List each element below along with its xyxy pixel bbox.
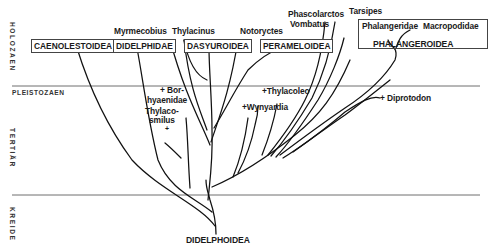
root-didelphoidea: DIDELPHOIDEA	[186, 236, 250, 245]
taxon-myrmecobius: Myrmecobius	[114, 27, 167, 35]
taxon-notoryctes: Notoryctes	[240, 27, 283, 35]
taxon-macropodidae: Macropodidae	[423, 22, 479, 30]
extinct-thylacosmilus-mark: +	[165, 125, 169, 132]
group-dasyuroidea: DASYUROIDEA	[184, 39, 252, 53]
taxon-phalangeridae: Phalangeridae	[362, 22, 418, 30]
era-label-kreide: KREIDE	[8, 207, 15, 242]
taxon-phascolarctos: Phascolarctos	[288, 10, 344, 18]
era-label-holozaen: HOLOZAEN	[8, 22, 15, 72]
extinct-diprotodon: + Diprotodon	[380, 94, 431, 102]
group-didelphidae: DIDELPHIDAE	[113, 39, 176, 53]
era-label-pleistozaen: PLEISTOZAEN	[12, 89, 65, 96]
era-label-tertiaer: TERTIÄR	[8, 128, 15, 168]
group-phalangeroidea: PHALANGEROIDEA	[373, 40, 453, 49]
extinct-thylacoleo: +Thylacoleo	[262, 87, 310, 95]
group-caenolestoidea: CAENOLESTOIDEA	[31, 39, 115, 53]
tree-branches	[77, 22, 410, 234]
taxon-tarsipes: Tarsipes	[349, 7, 382, 15]
extinct-wynyardia: +Wynyardia	[242, 103, 288, 111]
taxon-thylacinus: Thylacinus	[172, 27, 215, 35]
extinct-borhyaenidae-line2: hyaenidae	[147, 96, 187, 104]
extinct-borhyaenidae-line1: + Bor-	[160, 86, 184, 94]
taxon-vombatus: Vombatus	[290, 20, 329, 28]
extinct-thylacosmilus-line2: smilus	[149, 116, 175, 124]
group-perameloidea: PERAMELOIDEA	[260, 39, 333, 53]
